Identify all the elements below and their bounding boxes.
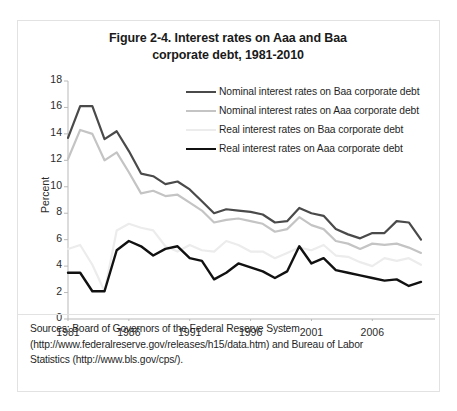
y-tick-label: 4 [24, 258, 62, 270]
y-tick-label: 8 [24, 205, 62, 217]
legend-item[interactable]: Nominal interest rates on Baa corporate … [186, 82, 436, 101]
legend-label: Real interest rates on Aaa corporate deb… [219, 143, 403, 154]
legend-swatch [186, 110, 216, 112]
source-divider [18, 314, 439, 315]
legend-item[interactable]: Real interest rates on Baa corporate deb… [186, 120, 436, 139]
source-note: Sources: Board of Governors of the Feder… [30, 321, 435, 368]
figure-container: Figure 2-4. Interest rates on Aaa and Ba… [17, 20, 440, 392]
y-tick-label: 18 [24, 73, 62, 85]
chart-plot-area [18, 21, 439, 321]
y-tick-label: 10 [24, 179, 62, 191]
y-axis [64, 81, 68, 319]
y-tick-label: 12 [24, 152, 62, 164]
legend-label: Nominal interest rates on Baa corporate … [219, 86, 420, 97]
legend-swatch [186, 129, 216, 131]
legend-item[interactable]: Nominal interest rates on Aaa corporate … [186, 101, 436, 120]
y-tick-label: 6 [24, 232, 62, 244]
source-line-3: Statistics (http://www.bls.gov/cps/). [30, 352, 435, 368]
source-line-2: (http://www.federalreserve.gov/releases/… [30, 337, 435, 353]
legend-swatch [186, 91, 216, 93]
y-tick-label: 2 [24, 285, 62, 297]
chart-legend: Nominal interest rates on Baa corporate … [186, 82, 436, 158]
source-line-1: Sources: Board of Governors of the Feder… [30, 321, 435, 337]
y-tick-label: 14 [24, 126, 62, 138]
legend-label: Real interest rates on Baa corporate deb… [219, 124, 403, 135]
y-tick-label: 16 [24, 99, 62, 111]
legend-label: Nominal interest rates on Aaa corporate … [219, 105, 419, 116]
legend-swatch [186, 148, 216, 150]
legend-item[interactable]: Real interest rates on Aaa corporate deb… [186, 139, 436, 158]
